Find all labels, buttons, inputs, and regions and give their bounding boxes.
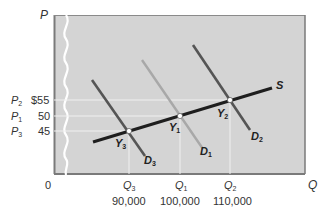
y-axis-title: P xyxy=(40,9,48,21)
supply-curve-label: S xyxy=(276,80,283,91)
equilibrium-point-y1 xyxy=(177,113,182,118)
x-tick-symbol-q3: Q3 xyxy=(123,180,135,192)
x-tick-value-q3: 90,000 xyxy=(112,196,146,207)
x-tick-value-q2: 110,000 xyxy=(213,196,252,207)
equilibrium-label-y3: Y3 xyxy=(115,138,126,150)
y-tick-symbol-p2: P2 xyxy=(11,95,22,107)
y-tick-symbol-p1: P1 xyxy=(11,111,22,123)
y-tick-symbol-p3: P3 xyxy=(11,126,22,138)
x-axis-title: Q xyxy=(308,179,317,191)
supply-demand-chart: P Q 0 P2 $55 P1 50 P3 45 Q3 90,000 Q1 10… xyxy=(0,0,324,217)
y-tick-value-p2: $55 xyxy=(31,95,49,106)
demand-curve-label-d3: D3 xyxy=(144,155,156,167)
equilibrium-point-y2 xyxy=(227,97,232,102)
equilibrium-label-y1: Y1 xyxy=(169,122,180,134)
equilibrium-point-y3 xyxy=(126,128,131,133)
equilibrium-label-y2: Y2 xyxy=(217,108,228,120)
x-tick-value-q1: 100,000 xyxy=(160,196,200,207)
origin-label: 0 xyxy=(45,180,51,191)
y-tick-value-p1: 50 xyxy=(38,111,50,122)
x-tick-symbol-q2: Q2 xyxy=(224,180,236,192)
y-tick-value-p3: 45 xyxy=(38,126,50,137)
x-tick-symbol-q1: Q1 xyxy=(175,180,187,192)
demand-curve-label-d2: D2 xyxy=(251,131,263,143)
demand-curve-label-d1: D1 xyxy=(200,146,212,158)
